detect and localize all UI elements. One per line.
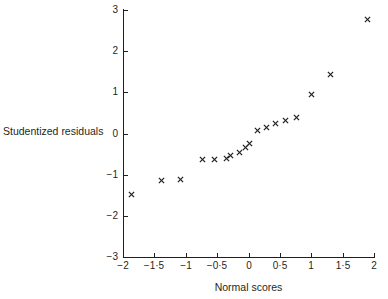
x-axis-title: Normal scores — [123, 281, 374, 293]
y-tick-mark — [124, 257, 128, 258]
x-tick-label: 2 — [359, 261, 388, 271]
y-tick-label: 2 — [100, 46, 118, 56]
data-point-marker — [364, 16, 371, 23]
x-tick-label: 1 — [296, 261, 326, 271]
y-tick-label: 3 — [100, 5, 118, 15]
x-tick-label: −1 — [171, 261, 201, 271]
data-point-marker — [246, 140, 253, 147]
x-tick-label: 0·5 — [265, 261, 295, 271]
data-point-marker — [199, 156, 206, 163]
data-point-marker — [308, 91, 315, 98]
x-tick-label: −0·5 — [202, 261, 232, 271]
data-point-marker — [227, 152, 234, 159]
qq-plot-figure: −3−2−10123 −2−1·5−1−0·500·511·52 Student… — [0, 0, 388, 299]
data-point-marker — [128, 191, 135, 198]
data-point-marker — [211, 156, 218, 163]
data-point-marker — [327, 71, 334, 78]
x-tick-label: −1·5 — [139, 261, 169, 271]
data-point-marker — [158, 177, 165, 184]
x-tick-mark — [374, 253, 375, 257]
y-tick-label: −1 — [100, 170, 118, 180]
data-point-marker — [263, 124, 270, 131]
x-tick-label: 0 — [234, 261, 264, 271]
x-tick-label: 1·5 — [328, 261, 358, 271]
y-tick-label: 1 — [100, 87, 118, 97]
data-point-marker — [293, 114, 300, 121]
data-point-marker — [282, 117, 289, 124]
plot-area — [123, 10, 374, 257]
data-point-marker — [254, 127, 261, 134]
x-tick-label: −2 — [108, 261, 138, 271]
data-point-marker — [177, 176, 184, 183]
data-point-marker — [272, 120, 279, 127]
x-axis-line — [123, 257, 375, 258]
y-tick-label: −2 — [100, 211, 118, 221]
y-axis-title: Studentized residuals — [3, 125, 103, 137]
